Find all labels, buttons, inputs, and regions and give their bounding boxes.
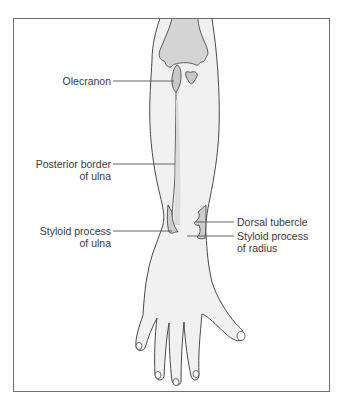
label-line: Styloid process [237, 230, 308, 242]
label-line: of ulna [40, 237, 111, 249]
nail-middle-finger [173, 379, 179, 386]
nail-ring-finger [155, 372, 161, 379]
label-line: Styloid process [40, 225, 111, 237]
label-line: Olecranon [63, 75, 111, 87]
label-line: of ulna [36, 170, 111, 182]
label-styloid-process-of-radius: Styloid process of radius [237, 230, 308, 254]
label-line: Dorsal tubercle [237, 216, 308, 228]
nail-index-finger [193, 371, 199, 378]
label-line: Posterior border [36, 158, 111, 170]
label-styloid-process-of-ulna: Styloid process of ulna [40, 225, 111, 249]
nail-thumb [237, 332, 245, 341]
forearm-hand-illustration [0, 0, 341, 402]
label-dorsal-tubercle: Dorsal tubercle [237, 216, 308, 228]
nail-little-finger [136, 343, 142, 350]
anatomy-figure: Olecranon Posterior border of ulna Stylo… [0, 0, 341, 402]
label-line: of radius [237, 242, 308, 254]
label-posterior-border-of-ulna: Posterior border of ulna [36, 158, 111, 182]
label-olecranon: Olecranon [63, 75, 111, 87]
